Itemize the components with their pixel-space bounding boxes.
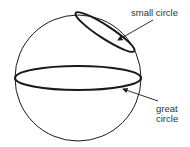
great-circle-pointer-arrow	[123, 89, 158, 101]
small-circle-label: small circle	[131, 7, 178, 18]
great-circle-label-line2: circle	[156, 113, 178, 124]
great-circle	[15, 66, 141, 90]
small-circle-pointer-arrow	[118, 20, 153, 40]
sphere-outline	[15, 15, 141, 141]
sphere-diagram: small circle great circle	[0, 0, 190, 147]
